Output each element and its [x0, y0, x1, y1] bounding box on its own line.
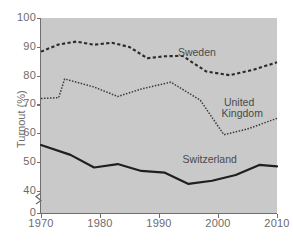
x-tick-label-1980: 1980 [76, 217, 124, 229]
y-tick-mark-60 [37, 133, 41, 134]
y-tick-mark-90 [37, 47, 41, 48]
y-tick-mark-100 [37, 18, 41, 19]
y-tick-label-100: 100 [4, 11, 36, 23]
annotation-switzerland: Switzerland [183, 154, 237, 165]
y-tick-label-80: 80 [4, 69, 36, 81]
y-tick-label-40: 40 [4, 184, 36, 196]
y-axis-break-marker [0, 0, 293, 244]
x-tick-mark-2010 [277, 214, 278, 218]
y-tick-mark-70 [37, 104, 41, 105]
y-tick-mark-40 [37, 191, 41, 192]
x-tick-label-2000: 2000 [194, 217, 242, 229]
annotation-sweden: Sweden [178, 47, 216, 58]
x-tick-label-1970: 1970 [17, 217, 65, 229]
x-tick-label-1990: 1990 [135, 217, 183, 229]
x-tick-label-2010: 2010 [253, 217, 293, 229]
y-tick-mark-80 [37, 76, 41, 77]
x-tick-mark-1970 [41, 214, 42, 218]
x-tick-mark-1990 [159, 214, 160, 218]
x-tick-mark-2000 [218, 214, 219, 218]
x-tick-mark-1980 [100, 214, 101, 218]
y-axis-title: Turnout (%) [15, 90, 27, 148]
y-tick-mark-50 [37, 162, 41, 163]
y-tick-label-50: 50 [4, 155, 36, 167]
annotation-kingdom: Kingdom [222, 108, 263, 119]
y-tick-label-90: 90 [4, 40, 36, 52]
chart-figure: 0405060708090100 19701980199020002010 Tu… [0, 0, 293, 244]
